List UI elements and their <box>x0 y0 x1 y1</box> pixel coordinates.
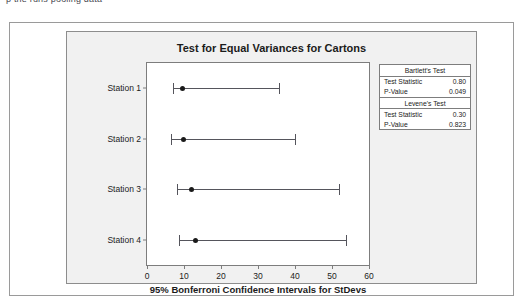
y-axis-tick <box>143 189 147 190</box>
interval-lower-cap <box>177 184 178 195</box>
y-axis-tick-label: Station 1 <box>107 83 141 93</box>
chart-title: Test for Equal Variances for Cartons <box>67 42 476 54</box>
x-axis-tick-label: 30 <box>253 271 262 281</box>
levene-p-value-label: P-Value <box>384 121 408 128</box>
interval-upper-cap <box>346 235 347 246</box>
y-axis-tick <box>143 138 147 139</box>
test-results-box: Bartlett's Test Test Statistic 0.80 P-Va… <box>379 64 471 130</box>
levene-p-value-value: 0.823 <box>449 121 466 128</box>
y-axis-tick-label: Station 4 <box>107 235 141 245</box>
x-axis-tick-label: 50 <box>327 271 336 281</box>
confidence-interval-line <box>179 240 346 241</box>
bartlett-p-value-row: P-Value 0.049 <box>380 87 470 97</box>
x-axis-tick <box>332 265 333 269</box>
interval-upper-cap <box>339 184 340 195</box>
plot-area: 95% Bonferroni Confidence Intervals for … <box>146 62 370 266</box>
x-axis-tick <box>258 265 259 269</box>
interval-lower-cap <box>179 235 180 246</box>
y-axis-tick <box>143 88 147 89</box>
bartlett-test-statistic-label: Test Statistic <box>384 78 422 85</box>
x-axis-title: 95% Bonferroni Confidence Intervals for … <box>147 284 369 295</box>
confidence-interval-line <box>173 88 280 89</box>
levene-p-value-row: P-Value 0.823 <box>380 119 470 129</box>
interval-point-estimate <box>180 86 185 91</box>
x-axis-tick-label: 40 <box>290 271 299 281</box>
document-frame: Test for Equal Variances for Cartons 95%… <box>9 22 514 296</box>
interval-point-estimate <box>181 137 186 142</box>
page-top-text: p the runs pooling data <box>6 0 102 4</box>
x-axis-tick-label: 60 <box>364 271 373 281</box>
bartlett-test-statistic-row: Test Statistic 0.80 <box>380 77 470 87</box>
confidence-interval-line <box>171 139 295 140</box>
levene-test-statistic-row: Test Statistic 0.30 <box>380 109 470 119</box>
interval-point-estimate <box>193 238 198 243</box>
levene-heading: Levene's Test <box>380 98 470 109</box>
x-axis-tick <box>369 265 370 269</box>
x-axis-tick <box>147 265 148 269</box>
interval-lower-cap <box>171 134 172 145</box>
interval-point-estimate <box>189 187 194 192</box>
interval-lower-cap <box>173 83 174 94</box>
y-axis-tick-label: Station 3 <box>107 184 141 194</box>
x-axis-tick <box>295 265 296 269</box>
confidence-interval-line <box>177 189 339 190</box>
bartlett-test-statistic-value: 0.80 <box>453 78 466 85</box>
bartlett-p-value-label: P-Value <box>384 88 408 95</box>
graph-panel: Test for Equal Variances for Cartons 95%… <box>66 31 477 284</box>
x-axis-tick-label: 20 <box>216 271 225 281</box>
bartlett-heading: Bartlett's Test <box>380 65 470 76</box>
x-axis-tick-label: 10 <box>179 271 188 281</box>
levene-test-statistic-value: 0.30 <box>453 111 466 118</box>
x-axis-tick <box>184 265 185 269</box>
x-axis-tick <box>221 265 222 269</box>
interval-upper-cap <box>279 83 280 94</box>
interval-upper-cap <box>295 134 296 145</box>
bartlett-p-value-value: 0.049 <box>449 88 466 95</box>
y-axis-tick-label: Station 2 <box>107 134 141 144</box>
y-axis-tick <box>143 239 147 240</box>
x-axis-tick-label: 0 <box>145 271 150 281</box>
levene-test-statistic-label: Test Statistic <box>384 111 422 118</box>
